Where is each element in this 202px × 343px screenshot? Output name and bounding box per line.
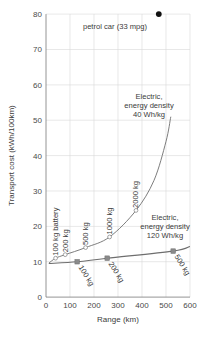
point-500kg-a — [84, 246, 88, 250]
x-tick-500: 500 — [159, 301, 173, 310]
point-500kg-b — [171, 249, 176, 254]
x-tick-100: 100 — [63, 301, 77, 310]
y-tick-50: 50 — [33, 116, 42, 125]
annotation-120whkg: Electric, energy density 120 Wh/kg — [140, 213, 190, 240]
y-tick-0: 0 — [38, 293, 43, 302]
label-200kg-a: 200 kg — [61, 229, 70, 252]
point-2000kg-a — [134, 209, 138, 213]
point-1000kg-a — [108, 235, 112, 239]
label-100kg-b: 100 kg — [77, 264, 97, 288]
point-200kg-a — [63, 253, 67, 257]
y-tick-10: 10 — [33, 258, 42, 267]
y-tick-20: 20 — [33, 222, 42, 231]
annotation-40whkg: Electric, energy density 40 Wh/kg — [124, 92, 174, 119]
point-100kg-battery — [54, 256, 58, 260]
label-200kg-b: 200 kg — [107, 260, 127, 284]
annotation-120whkg-line2: energy density — [140, 222, 190, 231]
annotation-40whkg-line3: 40 Wh/kg — [133, 110, 165, 119]
petrol-car-annotation: petrol car (33 mpg) — [83, 22, 148, 31]
petrol-car-point — [156, 11, 162, 17]
annotation-120whkg-line3: 120 Wh/kg — [147, 231, 183, 240]
y-tick-30: 30 — [33, 187, 42, 196]
y-axis-title: Transport cost (kWh/100km) — [7, 105, 16, 206]
point-200kg-b — [105, 256, 110, 261]
label-500kg-a: 500 kg — [81, 222, 90, 245]
x-tick-200: 200 — [87, 301, 101, 310]
transport-cost-vs-range-chart: 0 10 20 30 40 50 60 70 80 0 100 200 300 … — [0, 0, 202, 343]
x-tick-labels: 0 100 200 300 400 500 600 — [44, 301, 197, 310]
y-tick-70: 70 — [33, 45, 42, 54]
annotation-40whkg-line1: Electric, — [135, 92, 162, 101]
annotation-120whkg-line1: Electric, — [151, 213, 178, 222]
x-tick-0: 0 — [44, 301, 49, 310]
x-tick-600: 600 — [183, 301, 197, 310]
chart-figure: 0 10 20 30 40 50 60 70 80 0 100 200 300 … — [0, 0, 202, 343]
label-1000kg-a: 1000 kg — [105, 207, 114, 234]
x-axis-title: Range (km) — [97, 315, 139, 324]
x-tick-400: 400 — [135, 301, 149, 310]
point-100kg-b — [75, 259, 80, 264]
label-2000kg-a: 2000 kg — [131, 181, 140, 208]
label-500kg-b: 500 kg — [173, 253, 193, 277]
y-tick-labels: 0 10 20 30 40 50 60 70 80 — [33, 10, 42, 302]
y-tick-60: 60 — [33, 81, 42, 90]
x-tick-300: 300 — [111, 301, 125, 310]
y-tick-40: 40 — [33, 152, 42, 161]
y-tick-80: 80 — [33, 10, 42, 19]
label-100kg-battery: 100 kg battery — [51, 207, 60, 255]
annotation-40whkg-line2: energy density — [124, 101, 174, 110]
